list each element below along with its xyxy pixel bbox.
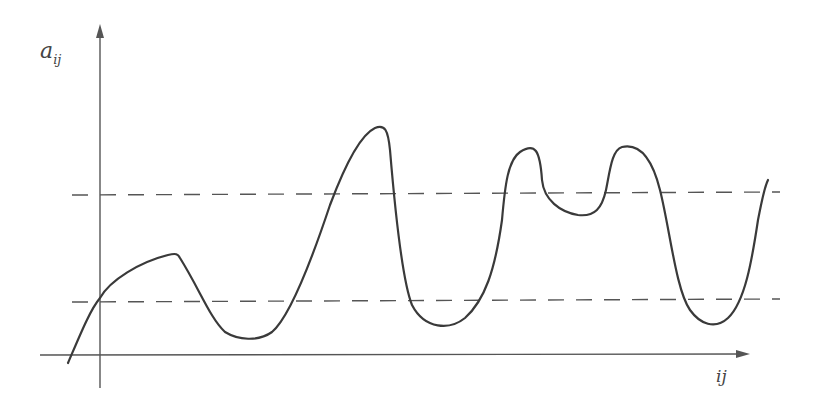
upper-threshold-line — [72, 192, 780, 195]
y-axis-arrowhead-icon — [96, 24, 104, 38]
lower-threshold-line — [72, 299, 780, 302]
y-axis-label-subscript: ij — [53, 52, 61, 67]
y-axis-label: aij — [40, 38, 61, 67]
x-axis-label: ij — [716, 366, 727, 386]
x-axis-arrowhead-icon — [736, 350, 750, 358]
y-axis-label-base: a — [40, 38, 53, 63]
x-axis — [40, 354, 742, 355]
diagram-canvas — [0, 0, 815, 401]
signal-curve — [68, 127, 768, 363]
